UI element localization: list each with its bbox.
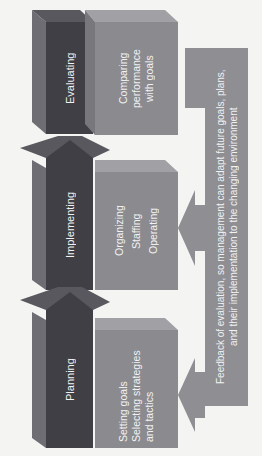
activity-text: with goals (143, 55, 156, 102)
activity-text: Staffing (128, 213, 145, 248)
activities-planning: Setting goals Selecting strategies and t… (95, 330, 178, 448)
activity-text: Setting goals (117, 381, 130, 442)
activity-text: performance (130, 49, 143, 108)
activity-text: and tactics (143, 392, 156, 442)
feedback-line-2: and their implementation to the changing… (227, 108, 240, 346)
stage-label-planning: Planning (46, 312, 93, 448)
feedback-line-1: Feedback of evaluation, so management ca… (214, 70, 227, 385)
stage-label-evaluating: Evaluating (46, 22, 93, 134)
stage-label-implementing: Implementing (46, 160, 93, 290)
activities-implementing: Organizing Staffing Operating (95, 172, 178, 290)
activity-text: Selecting strategies (130, 350, 143, 442)
activities-evaluating: Comparing performance with goals (95, 22, 178, 135)
feedback-label: Feedback of evaluation, so management ca… (205, 48, 248, 406)
activity-text: Comparing (117, 53, 130, 104)
activity-text: Organizing (111, 206, 128, 257)
activity-text: Operating (145, 208, 162, 254)
